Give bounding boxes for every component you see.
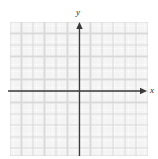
- x-axis-label: x: [150, 86, 154, 95]
- axes-overlay: [0, 0, 158, 159]
- coordinate-grid-figure: y x: [0, 0, 158, 159]
- y-axis-label: y: [76, 8, 80, 17]
- y-axis-arrowhead-icon: [76, 22, 82, 29]
- x-axis-arrowhead-icon: [140, 88, 147, 94]
